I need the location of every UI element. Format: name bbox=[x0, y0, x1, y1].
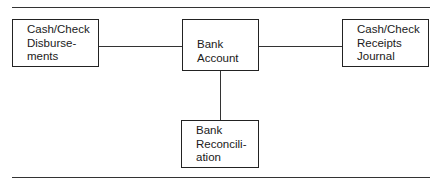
node-label-line: Journal bbox=[357, 50, 420, 64]
edge-disbursements-bank-account bbox=[98, 46, 182, 47]
node-cash-check-disbursements: Cash/Check Disburse- ments bbox=[12, 19, 99, 67]
node-label-line: Cash/Check bbox=[27, 23, 90, 37]
node-label-line: Reconcili- bbox=[196, 138, 247, 152]
node-label-line: Receipts bbox=[357, 37, 420, 51]
node-bank-reconciliation: Bank Reconcili- ation bbox=[181, 120, 259, 168]
node-bank-account: Bank Account bbox=[182, 19, 259, 71]
node-label-line: Bank bbox=[196, 124, 247, 138]
edge-bank-account-reconciliation bbox=[220, 71, 221, 120]
bottom-rule bbox=[12, 177, 430, 178]
node-label-line: Account bbox=[197, 52, 239, 66]
node-cash-check-receipts-journal: Cash/Check Receipts Journal bbox=[342, 19, 429, 67]
node-label-line: Bank bbox=[197, 38, 239, 52]
edge-bank-account-receipts bbox=[258, 46, 342, 47]
node-label-line: ments bbox=[27, 50, 90, 64]
node-label-line: ation bbox=[196, 151, 247, 165]
node-label-line: Cash/Check bbox=[357, 23, 420, 37]
node-label-line: Disburse- bbox=[27, 37, 90, 51]
top-rule bbox=[12, 7, 430, 8]
